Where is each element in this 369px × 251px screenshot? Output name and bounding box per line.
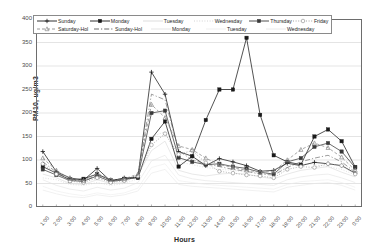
y-tick-350: 350	[8, 39, 32, 45]
y-tick-0: 0	[8, 203, 32, 209]
legend-item-thursday-r1c4: Thursday	[248, 17, 292, 25]
legend-label: Friday	[314, 17, 328, 25]
line-plain-solid-pale2-icon	[205, 25, 227, 33]
line-square-solid-dark-icon	[89, 17, 111, 25]
legend-label: Wednesday	[287, 25, 314, 33]
legend-item-sunday-hol-r2c1: Sunday-Hol	[93, 25, 150, 33]
legend-item-tuesday-r2c3: Tuesday	[205, 25, 265, 33]
line-plain-solid-pale3-icon	[265, 25, 287, 33]
legend-label: Tuesday	[227, 25, 247, 33]
series-tuesday-2	[43, 141, 355, 184]
line-plain-dashdot-gray-icon	[93, 25, 115, 33]
legend-item-saturday-hol-r2c0: Saturday-Hol	[36, 25, 93, 33]
series-sunday-0	[41, 70, 358, 183]
legend-item-wednesday-r2c4: Wednesday	[265, 25, 310, 33]
chart-legend: SundayMondayTuesdayWednesdayThursdayFrid…	[33, 15, 332, 34]
y-tick-100: 100	[8, 156, 32, 162]
line-plain-dot-light-icon	[193, 17, 215, 25]
y-tick-150: 150	[8, 133, 32, 139]
y-tick-50: 50	[8, 180, 32, 186]
legend-item-friday-r1c5: Friday	[292, 17, 329, 25]
line-square-solid-gray-icon	[248, 17, 270, 25]
line-plus-solid-dark-icon	[36, 17, 58, 25]
legend-row-1: SundayMondayTuesdayWednesdayThursdayFrid…	[36, 17, 329, 25]
legend-item-monday-r1c1: Monday	[89, 17, 142, 25]
y-tick-400: 400	[8, 15, 32, 21]
y-tick-200: 200	[8, 109, 32, 115]
legend-label: Wednesday	[215, 17, 242, 25]
chart-screenshot: PM10, ug/m3 Hours 4003503002502001501005…	[0, 0, 369, 251]
y-tick-300: 300	[8, 62, 32, 68]
legend-label: Saturday-Hol	[58, 25, 88, 33]
x-axis-title: Hours	[0, 236, 369, 243]
legend-label: Monday	[172, 25, 190, 33]
legend-item-wednesday-r1c3: Wednesday	[193, 17, 249, 25]
line-circle-dot-gray-icon	[292, 17, 314, 25]
y-tick-250: 250	[8, 86, 32, 92]
legend-label: Tuesday	[164, 17, 184, 25]
line-triangle-dash-gray-icon	[36, 25, 58, 33]
legend-label: Sunday-Hol	[115, 25, 142, 33]
legend-item-tuesday-r1c2: Tuesday	[142, 17, 193, 25]
legend-item-sunday-r1c0: Sunday	[36, 17, 89, 25]
line-plain-solid-pale-icon	[150, 25, 172, 33]
series-wednesday-3	[43, 132, 355, 186]
legend-label: Sunday	[58, 17, 76, 25]
legend-row-2: Saturday-HolSunday-HolMondayTuesdayWedne…	[36, 25, 329, 33]
plot-svg	[36, 19, 362, 207]
legend-label: Thursday	[270, 17, 292, 25]
legend-item-monday-r2c2: Monday	[150, 25, 205, 33]
series-saturday-hol-6	[41, 102, 357, 182]
line-plain-solid-light-icon	[142, 17, 164, 25]
plot-area	[36, 19, 362, 207]
legend-label: Monday	[111, 17, 129, 25]
